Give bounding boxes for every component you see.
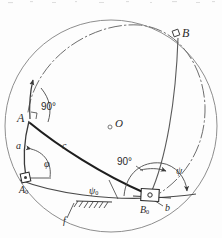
label-point-B0: B0 xyxy=(140,205,149,215)
ground-hatch-baseline xyxy=(76,201,112,202)
label-psi0-sub: 0 xyxy=(95,189,98,196)
ground-arc-f xyxy=(20,180,196,198)
right-angle-pointer-B0 xyxy=(140,169,166,171)
label-right-angle-A: 90° xyxy=(41,102,56,112)
label-frame-f: f xyxy=(63,216,66,226)
sphere-outline xyxy=(5,20,217,232)
label-point-B: B xyxy=(182,27,189,39)
label-B0-sub: 0 xyxy=(146,208,149,215)
joint-square-B xyxy=(172,29,180,37)
center-dot-O xyxy=(108,125,112,129)
scan-artifacts xyxy=(8,1,215,3)
label-point-O: O xyxy=(115,118,123,129)
normal-arc-at-A xyxy=(30,80,33,119)
right-angle-leader-B0 xyxy=(136,166,143,171)
right-angle-tick-A xyxy=(31,112,37,119)
label-point-A0: A0 xyxy=(19,185,28,195)
label-angle-psi0: ψ0 xyxy=(89,186,98,196)
crank-arc-a xyxy=(24,121,29,178)
psi0-tick xyxy=(109,180,118,199)
follower-arc-b xyxy=(150,38,178,195)
f-leader-line xyxy=(67,203,74,218)
label-link-c: c xyxy=(62,141,66,151)
label-link-b: b xyxy=(165,203,170,213)
label-angle-phi: φ xyxy=(44,159,50,169)
figure-canvas: A B O A0 B0 a b c f φ ψ ψ0 90° 90° xyxy=(0,0,222,238)
pivot-A0 xyxy=(24,176,27,179)
label-link-a: a xyxy=(16,141,21,151)
slider-block-B0 xyxy=(141,189,160,202)
label-right-angle-B0: 90° xyxy=(117,157,132,167)
label-angle-psi: ψ xyxy=(176,166,182,176)
label-point-A: A xyxy=(17,112,24,124)
label-A0-sub: 0 xyxy=(25,188,28,195)
